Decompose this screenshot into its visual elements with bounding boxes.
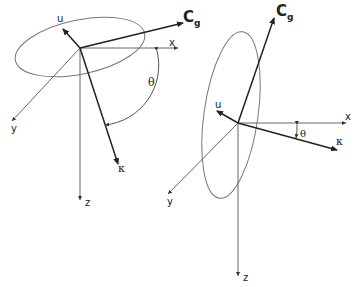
right-theta-label: θ <box>300 128 306 139</box>
right-y-label: y <box>167 196 173 207</box>
left-z-label: z <box>85 197 90 208</box>
right-z-label: z <box>243 272 248 283</box>
diagram-canvas: u Cg x y z κ θ u Cg x y z κ θ <box>0 0 355 287</box>
left-theta-label: θ <box>148 76 155 89</box>
right-figure: u Cg x y z κ θ <box>167 2 351 283</box>
right-ellipse <box>193 28 270 202</box>
right-cg-vector <box>238 18 274 123</box>
left-y-label: y <box>11 123 17 134</box>
right-u-vector <box>217 111 238 123</box>
left-y-axis <box>12 48 80 121</box>
left-u-vector <box>63 29 80 48</box>
left-figure: u Cg x y z κ θ <box>10 7 201 208</box>
left-cg-vector <box>80 23 183 48</box>
right-theta-arc <box>296 125 297 138</box>
right-u-label: u <box>215 99 221 110</box>
left-u-label: u <box>57 13 63 24</box>
left-kappa-label: κ <box>118 162 125 175</box>
right-x-label: x <box>345 111 351 122</box>
left-cg-label: Cg <box>183 8 200 28</box>
left-x-label: x <box>169 37 175 48</box>
right-y-axis <box>168 123 238 194</box>
right-kappa-label: κ <box>336 135 343 148</box>
right-cg-label: Cg <box>276 2 293 22</box>
